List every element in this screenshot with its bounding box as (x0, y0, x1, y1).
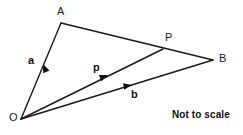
vector-label-b: b (131, 89, 138, 100)
segment-OA (21, 23, 61, 119)
vector-label-p: p (93, 62, 100, 73)
vector-diagram-canvas: O A B P a p b Not to scale (0, 0, 243, 135)
vector-label-a: a (28, 55, 34, 66)
point-label-P: P (165, 32, 172, 43)
segment-AB (61, 23, 213, 60)
point-label-O: O (9, 112, 18, 123)
segments-group (21, 23, 213, 119)
arrowheads-group (40, 63, 133, 90)
point-label-A: A (57, 6, 64, 17)
segment-OP (21, 49, 163, 119)
not-to-scale-note: Not to scale (172, 110, 230, 120)
point-label-B: B (219, 53, 226, 64)
